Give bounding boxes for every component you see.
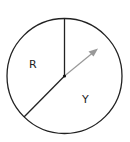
spinner-diagram: R Y (0, 0, 130, 142)
section-label-y: Y (81, 93, 89, 106)
section-label-r: R (29, 58, 37, 71)
pointer-pivot (63, 74, 66, 77)
